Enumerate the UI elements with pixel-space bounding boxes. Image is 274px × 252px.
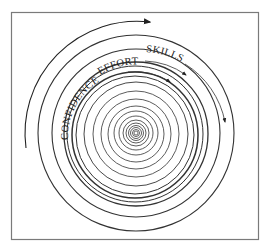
confidence-arrow — [128, 72, 170, 82]
spiral-diagram: SKILLS EFFORT CONFIDENCE — [0, 0, 274, 252]
effort-label: EFFORT — [96, 55, 139, 76]
skills-label: SKILLS — [146, 43, 186, 64]
confidence-label: CONFIDENCE — [59, 74, 101, 140]
